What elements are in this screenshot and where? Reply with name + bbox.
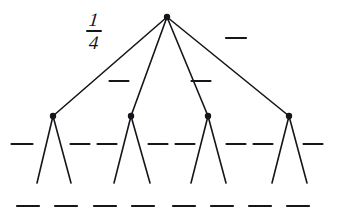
edge-d-left — [272, 116, 289, 183]
fraction-numerator: 1 — [88, 10, 100, 30]
edge-c-right — [208, 116, 226, 183]
node-b — [128, 113, 134, 119]
node-a — [50, 113, 56, 119]
edge-root-d — [167, 17, 289, 116]
blank-label-dashes — [12, 38, 323, 206]
edge-a-left — [37, 116, 53, 183]
edge-b-right — [131, 116, 150, 183]
tree-diagram-canvas: 1 4 — [0, 0, 337, 220]
edge-root-a — [53, 17, 167, 116]
fraction-denominator: 4 — [89, 32, 100, 52]
probability-tree-graphic — [0, 0, 337, 220]
edge-b-left — [114, 116, 131, 183]
edge-d-right — [289, 116, 307, 183]
edge-a-right — [53, 116, 71, 183]
edge-root-c — [167, 17, 208, 116]
node-c — [205, 113, 211, 119]
leaf-branch-edges — [37, 116, 307, 183]
probability-label-one-quarter: 1 4 — [86, 10, 102, 52]
edge-c-left — [191, 116, 208, 183]
node-d — [286, 113, 292, 119]
root-node — [164, 14, 170, 20]
